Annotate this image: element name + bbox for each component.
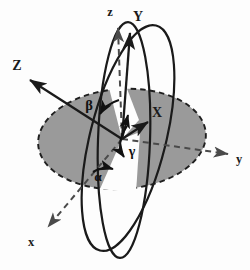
euler-angles-figure: z y x Z Y X α β γ [0,0,250,270]
x-axis-label: x [28,235,35,249]
y-axis-label: y [236,152,243,166]
Y-axis-label: Y [133,9,143,24]
X-axis-label: X [152,105,162,120]
z-axis-label: z [107,5,113,19]
beta-angle-label: β [85,97,93,113]
euler-diagram-canvas: z y x Z Y X α β γ [0,0,250,270]
gamma-angle-label: γ [128,144,136,159]
alpha-angle-label: α [94,169,102,184]
Z-axis-label: Z [12,58,21,73]
